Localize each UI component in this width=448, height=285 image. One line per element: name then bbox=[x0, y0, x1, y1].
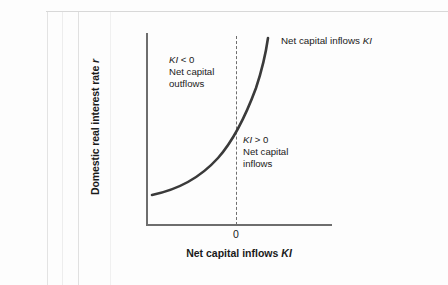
page-top-rule bbox=[46, 11, 448, 12]
x-axis-title: Net capital inflows KI bbox=[146, 247, 332, 259]
chart-page: Domestic real interest rate r Net capita… bbox=[0, 0, 448, 285]
zero-reference-line bbox=[236, 36, 237, 225]
annotation-outflows-operator: < 0 bbox=[178, 54, 194, 65]
annotation-outflows-line3: outflows bbox=[169, 78, 214, 90]
chart-curve-layer bbox=[0, 0, 448, 285]
page-gutter-line-3 bbox=[78, 12, 79, 285]
page-gutter-line-4 bbox=[110, 12, 111, 285]
annotation-outflows-symbol: KI bbox=[169, 54, 178, 65]
y-axis-title-symbol: r bbox=[89, 59, 101, 63]
annotation-outflows-line2: Net capital bbox=[169, 66, 214, 78]
y-axis-title-text: Domestic real interest rate bbox=[89, 63, 101, 195]
page-gutter-line-1 bbox=[47, 12, 48, 285]
curve-label-symbol: KI bbox=[363, 35, 372, 46]
annotation-inflows-line2: Net capital bbox=[243, 146, 288, 158]
page-gutter-line-2 bbox=[62, 12, 63, 285]
y-axis-title: Domestic real interest rate r bbox=[89, 22, 101, 232]
annotation-inflows-operator: > 0 bbox=[252, 134, 268, 145]
y-axis-line bbox=[146, 33, 148, 226]
x-axis-line bbox=[146, 224, 332, 226]
annotation-inflows-condition: KI > 0 bbox=[243, 134, 288, 146]
annotation-inflows-line3: inflows bbox=[243, 158, 288, 170]
x-axis-title-text: Net capital inflows bbox=[186, 247, 281, 259]
x-axis-origin-tick-label: 0 bbox=[222, 228, 250, 240]
annotation-outflows-condition: KI < 0 bbox=[169, 54, 214, 66]
annotation-net-capital-outflows: KI < 0 Net capital outflows bbox=[169, 54, 214, 91]
x-axis-title-symbol: KI bbox=[281, 247, 292, 259]
annotation-net-capital-inflows: KI > 0 Net capital inflows bbox=[243, 134, 288, 171]
curve-label: Net capital inflows KI bbox=[281, 35, 372, 46]
curve-label-text: Net capital inflows bbox=[281, 35, 363, 46]
annotation-inflows-symbol: KI bbox=[243, 134, 252, 145]
